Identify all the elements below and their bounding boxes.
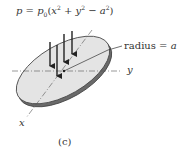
y-axis-label: y <box>127 64 133 75</box>
center-point <box>63 70 66 73</box>
radius-label-text: radius = <box>124 40 171 51</box>
x-axis-label: x <box>19 117 25 128</box>
radius-label: radius = a <box>124 40 177 51</box>
figure-caption: (c) <box>58 136 71 147</box>
x-axis-label-text: x <box>19 117 25 128</box>
disk-diagram <box>0 0 177 155</box>
radius-label-variable: a <box>171 40 177 51</box>
y-axis-label-text: y <box>127 64 133 75</box>
